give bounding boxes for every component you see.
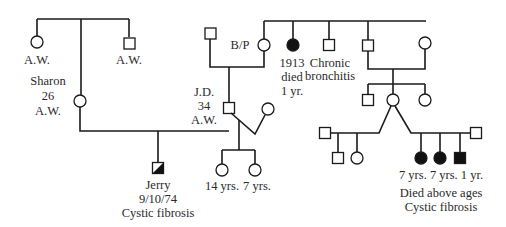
male-symbol-jd-father	[205, 28, 216, 39]
male-symbol-half1-son	[333, 153, 344, 164]
marriage-line-brother-right	[368, 49, 425, 94]
label-cf-note-1: Died above ages	[400, 186, 483, 200]
label-jerry-diagnosis: Cystic fibrosis	[122, 206, 195, 220]
label-age-7: 7 yrs.	[243, 179, 271, 193]
label-died-word: died	[281, 70, 303, 84]
male-symbol-husband-2	[471, 128, 482, 139]
label-aw-right: A.W.	[116, 53, 142, 67]
male-affected-symbol-cf	[455, 153, 466, 164]
female-symbol-brother-right-wife	[419, 37, 431, 49]
label-bp: B/P	[231, 38, 250, 52]
bp-sibship-lines	[264, 21, 426, 40]
male-symbol-brother-right	[363, 40, 374, 51]
male-symbol-bronchitis	[324, 40, 335, 51]
label-sharon-age: 26	[42, 89, 55, 103]
label-bronchitis-2: bronchitis	[305, 69, 355, 83]
label-cf-ages: 7 yrs. 7 yrs. 1 yr.	[399, 168, 483, 182]
pedigree-diagram: A.W. A.W. Sharon 26 A.W. Jerry 9/10/74 C…	[0, 0, 506, 227]
female-symbol-aw-left	[31, 36, 43, 48]
male-symbol-cousin	[363, 95, 374, 106]
female-symbol-cousin-2	[419, 94, 431, 106]
female-symbol-jd-wife	[262, 103, 274, 115]
female-symbol-sharon	[74, 95, 86, 107]
female-symbol-daughter-14	[216, 164, 228, 176]
female-affected-symbol-cf-1	[415, 152, 427, 164]
label-jd-age: 34	[198, 99, 211, 113]
female-affected-symbol-cf-2	[434, 152, 446, 164]
female-symbol-cousin-mother	[387, 94, 399, 106]
male-symbol-husband-1	[320, 128, 331, 139]
marriage-line-jd-wife	[222, 113, 265, 164]
label-jerry-name: Jerry	[146, 178, 172, 192]
label-died-age: 1 yr.	[281, 84, 303, 98]
label-died-year: 1913	[280, 56, 305, 70]
female-symbol-daughter-7	[249, 164, 261, 176]
male-symbol-jerry	[153, 163, 164, 174]
female-symbol-half1-daughter	[351, 152, 363, 164]
male-symbol-aw-right	[124, 38, 135, 49]
label-jd-name: J.D.	[194, 85, 214, 99]
label-jerry-date: 9/10/74	[139, 192, 178, 206]
label-cf-note-2: Cystic fibrosis	[405, 200, 478, 214]
label-jd-status: A.W.	[191, 113, 217, 127]
label-aw-left: A.W.	[24, 53, 50, 67]
female-symbol-bp	[258, 39, 270, 51]
cousin-twin-marriage-lines	[325, 106, 476, 152]
female-affected-symbol-1913	[287, 39, 299, 51]
label-age-14: 14 yrs.	[205, 179, 239, 193]
label-sharon-status: A.W.	[35, 104, 61, 118]
male-symbol-jd	[224, 103, 235, 114]
label-bronchitis-1: Chronic	[310, 56, 351, 70]
label-sharon-name: Sharon	[30, 74, 66, 88]
